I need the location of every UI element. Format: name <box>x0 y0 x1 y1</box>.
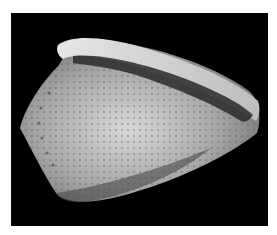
cone-shell-illustration <box>11 13 268 226</box>
shell-photo <box>11 13 268 226</box>
